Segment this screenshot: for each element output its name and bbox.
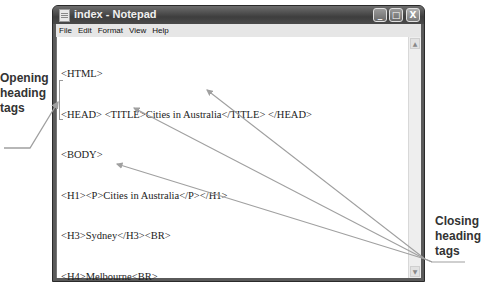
label-line: heading (0, 86, 49, 101)
notepad-window: index - Notepad _ □ X FileEditFormatView… (52, 5, 425, 282)
label-line: tags (435, 244, 481, 259)
menu-edit[interactable]: Edit (75, 24, 95, 36)
menu-file[interactable]: File (56, 24, 75, 36)
code-line: <H4>Melbourne<BR> (61, 270, 403, 284)
vertical-scrollbar[interactable]: ▲ ▼ (408, 37, 421, 278)
code-line: <BODY> (61, 148, 403, 162)
scroll-down-icon[interactable]: ▼ (410, 266, 420, 277)
menu-help[interactable]: Help (149, 24, 171, 36)
title-bar[interactable]: index - Notepad _ □ X (53, 6, 424, 24)
opening-heading-tags-label: Opening heading tags (0, 71, 49, 116)
minimize-button[interactable]: _ (373, 8, 387, 22)
closing-heading-tags-label: Closing heading tags (435, 214, 481, 259)
window-title: index - Notepad (74, 8, 157, 20)
code-line: <HEAD> <TITLE>Cities in Australia</TITLE… (61, 108, 403, 122)
text-editor[interactable]: <HTML> <HEAD> <TITLE>Cities in Australia… (56, 37, 421, 278)
maximize-button[interactable]: □ (389, 8, 403, 22)
menu-format[interactable]: Format (95, 24, 126, 36)
menu-bar: FileEditFormatViewHelp (56, 24, 421, 37)
notepad-icon[interactable] (59, 9, 70, 22)
close-button[interactable]: X (406, 8, 420, 22)
label-line: heading (435, 229, 481, 244)
code-line: <H1><P>Cities in Australia</P></H1> (61, 189, 403, 203)
menu-view[interactable]: View (126, 24, 149, 36)
code-line: <HTML> (61, 67, 403, 81)
scroll-up-icon[interactable]: ▲ (410, 38, 420, 49)
label-line: Opening (0, 71, 49, 86)
label-line: tags (0, 101, 49, 116)
label-line: Closing (435, 214, 481, 229)
editor-content[interactable]: <HTML> <HEAD> <TITLE>Cities in Australia… (61, 40, 403, 278)
opening-tags-bracket (59, 80, 63, 120)
code-line: <H3>Sydney</H3><BR> (61, 229, 403, 243)
